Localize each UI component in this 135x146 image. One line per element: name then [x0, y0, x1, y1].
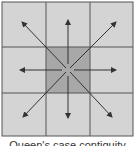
contiguity-grid-diagram — [0, 0, 135, 138]
cell-ne — [90, 2, 133, 47]
cell-se — [90, 93, 133, 136]
diagram-caption: Queen's case contiguity — [0, 139, 135, 146]
